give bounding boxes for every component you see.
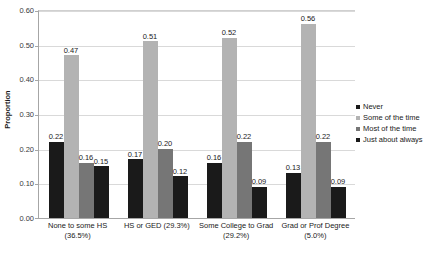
y-axis-tick-label: 0.00	[19, 214, 34, 223]
bar-group: 0.160.520.220.09	[197, 11, 276, 218]
bar-slot: 0.16	[79, 11, 94, 218]
bar-group: 0.220.470.160.15	[39, 11, 118, 218]
chart-legend: NeverSome of the timeMost of the timeJus…	[356, 101, 434, 145]
legend-swatch-icon	[356, 127, 360, 131]
y-axis-title-text: Proportion	[3, 90, 12, 128]
bar-value-label: 0.22	[49, 133, 64, 141]
bar-slot: 0.56	[301, 11, 316, 218]
bar[interactable]	[316, 142, 331, 218]
x-axis-category-label-line: Some College to Grad	[199, 221, 273, 230]
bar-value-label: 0.13	[286, 164, 301, 172]
bar-value-label: 0.09	[331, 178, 346, 186]
legend-swatch-icon	[356, 138, 360, 142]
bar[interactable]	[94, 166, 109, 218]
legend-item[interactable]: Never	[356, 101, 434, 112]
x-axis-category-label: Some College to Grad(29.2%)	[197, 221, 276, 241]
bar-slot: 0.52	[222, 11, 237, 218]
x-axis-category-label: HS or GED (29.3%)	[117, 221, 196, 241]
legend-swatch-icon	[356, 105, 360, 109]
y-axis-tick-labels: 0.600.500.400.300.200.100.00	[14, 10, 36, 218]
legend-item[interactable]: Most of the time	[356, 123, 434, 134]
x-axis-category-labels: None to some HS(36.5%)HS or GED (29.3%)S…	[38, 221, 355, 241]
bar-slot: 0.51	[143, 11, 158, 218]
bar-value-label: 0.12	[173, 168, 188, 176]
bar[interactable]	[222, 38, 237, 218]
x-axis-category-label-line: (29.2%)	[198, 231, 275, 241]
bar[interactable]	[49, 142, 64, 218]
legend-item[interactable]: Just about always	[356, 134, 434, 145]
legend-item-label: Some of the time	[363, 114, 420, 122]
bar-value-label: 0.51	[143, 33, 158, 41]
y-axis-tick-label: 0.50	[19, 40, 34, 49]
x-axis-category-label-line: (36.5%)	[39, 231, 116, 241]
bar-slot: 0.22	[237, 11, 252, 218]
bar-value-label: 0.56	[301, 15, 316, 23]
bar-value-label: 0.16	[79, 154, 94, 162]
bar-value-label: 0.20	[158, 140, 173, 148]
y-axis-tick-label: 0.60	[19, 6, 34, 15]
bar-slot: 0.22	[49, 11, 64, 218]
x-axis-category-label-line: Grad or Prof Degree	[281, 221, 349, 230]
y-axis-tick-label: 0.40	[19, 75, 34, 84]
bar-value-label: 0.22	[316, 133, 331, 141]
bar[interactable]	[173, 176, 188, 218]
bar[interactable]	[207, 163, 222, 218]
bar-value-label: 0.16	[207, 154, 222, 162]
bar[interactable]	[143, 41, 158, 218]
bar-slot: 0.12	[173, 11, 188, 218]
bar[interactable]	[79, 163, 94, 218]
bar-chart: Proportion 0.600.500.400.300.200.100.00 …	[0, 0, 434, 262]
bar[interactable]	[237, 142, 252, 218]
y-axis-tick-label: 0.10	[19, 179, 34, 188]
bar[interactable]	[252, 187, 267, 218]
x-axis-category-label: None to some HS(36.5%)	[38, 221, 117, 241]
bar-slot: 0.20	[158, 11, 173, 218]
legend-item-label: Never	[363, 103, 383, 111]
x-axis-category-label-line: None to some HS	[48, 221, 107, 230]
bar[interactable]	[331, 187, 346, 218]
y-axis-tick-label: 0.20	[19, 144, 34, 153]
bar-value-label: 0.22	[237, 133, 252, 141]
x-axis-category-label: Grad or Prof Degree(5.0%)	[276, 221, 355, 241]
y-axis-tick-label: 0.30	[19, 110, 34, 119]
x-axis-category-label-line: HS or GED (29.3%)	[124, 221, 190, 230]
y-axis-tick-mark	[35, 218, 39, 219]
bar-slot: 0.15	[94, 11, 109, 218]
bar-group: 0.170.510.200.12	[118, 11, 197, 218]
bar-value-label: 0.09	[252, 178, 267, 186]
bar-slot: 0.09	[252, 11, 267, 218]
x-axis-category-label-line: (5.0%)	[277, 231, 354, 241]
bar-slot: 0.17	[128, 11, 143, 218]
bar-value-label: 0.47	[64, 47, 79, 55]
bar-value-label: 0.15	[94, 158, 109, 166]
bar-slot: 0.13	[286, 11, 301, 218]
legend-item-label: Just about always	[363, 136, 423, 144]
bar[interactable]	[301, 24, 316, 218]
bar-slot: 0.22	[316, 11, 331, 218]
plot-area: 0.220.470.160.150.170.510.200.120.160.52…	[38, 10, 355, 218]
bar-slot: 0.16	[207, 11, 222, 218]
legend-item[interactable]: Some of the time	[356, 112, 434, 123]
bar[interactable]	[128, 159, 143, 218]
bar-value-label: 0.52	[222, 29, 237, 37]
bar-groups: 0.220.470.160.150.170.510.200.120.160.52…	[39, 11, 355, 218]
y-axis-title: Proportion	[0, 0, 14, 218]
bar-slot: 0.47	[64, 11, 79, 218]
bar[interactable]	[286, 173, 301, 218]
legend-item-label: Most of the time	[363, 125, 416, 133]
bar-slot: 0.09	[331, 11, 346, 218]
legend-swatch-icon	[356, 116, 360, 120]
bar[interactable]	[64, 55, 79, 218]
bar-value-label: 0.17	[128, 151, 143, 159]
bar-group: 0.130.560.220.09	[276, 11, 355, 218]
gridline	[39, 218, 355, 219]
bar[interactable]	[158, 149, 173, 218]
